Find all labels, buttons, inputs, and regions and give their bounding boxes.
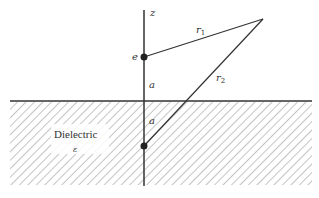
image-charge-point bbox=[141, 143, 148, 150]
distance-above-label: a bbox=[149, 79, 155, 90]
diagram-svg: z e r1 r2 a a Dielectric ε bbox=[0, 0, 319, 198]
z-axis-label: z bbox=[149, 7, 156, 18]
diagram-canvas: z e r1 r2 a a Dielectric ε bbox=[0, 0, 319, 198]
r1-label: r1 bbox=[196, 24, 205, 37]
charge-point bbox=[141, 54, 148, 61]
r2-label: r2 bbox=[216, 72, 225, 85]
charge-label: e bbox=[132, 51, 138, 62]
distance-below-label: a bbox=[149, 115, 155, 126]
dielectric-label: Dielectric bbox=[54, 128, 97, 140]
permittivity-label: ε bbox=[73, 145, 77, 154]
